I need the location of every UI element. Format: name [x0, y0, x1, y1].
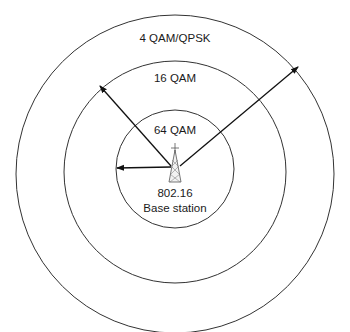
- arrow-inner-radius: [117, 167, 171, 168]
- radio-tower-icon: [169, 143, 181, 182]
- middle-zone-label: 16 QAM: [154, 72, 196, 84]
- station-standard-label: 802.16: [157, 187, 192, 199]
- inner-zone-label: 64 QAM: [154, 124, 196, 136]
- outer-zone-label: 4 QAM/QPSK: [140, 32, 211, 44]
- modulation-zone-diagram: 4 QAM/QPSK 16 QAM 64 QAM 802.16 Base sta…: [0, 0, 350, 332]
- station-name-label: Base station: [143, 202, 206, 214]
